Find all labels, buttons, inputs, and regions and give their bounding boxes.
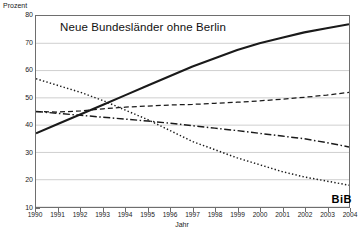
x-tick-label: 2004 xyxy=(335,211,364,218)
x-tick-mark xyxy=(283,208,284,212)
x-tick-mark xyxy=(80,208,81,212)
chart-root: Prozent 8070605040302010 199019911992199… xyxy=(0,0,364,231)
x-tick-mark xyxy=(58,208,59,212)
x-tick-mark xyxy=(103,208,104,212)
x-tick-mark xyxy=(328,208,329,212)
x-tick-mark xyxy=(305,208,306,212)
x-tick-mark xyxy=(148,208,149,212)
x-tick-mark xyxy=(170,208,171,212)
series-line xyxy=(36,79,349,185)
series-line xyxy=(36,112,349,147)
plot-area xyxy=(35,15,350,208)
bib-logo: BiB xyxy=(332,193,352,205)
x-tick-mark xyxy=(35,208,36,212)
x-tick-mark xyxy=(125,208,126,212)
x-tick-mark xyxy=(350,208,351,212)
x-tick-mark xyxy=(238,208,239,212)
x-axis-title: Jahr xyxy=(0,221,364,229)
x-tick-mark xyxy=(193,208,194,212)
chart-title: Neue Bundesländer ohne Berlin xyxy=(60,21,226,34)
x-tick-mark xyxy=(260,208,261,212)
series-line xyxy=(36,24,349,133)
chart-canvas xyxy=(36,16,349,207)
series-line xyxy=(36,92,349,112)
x-tick-mark xyxy=(215,208,216,212)
